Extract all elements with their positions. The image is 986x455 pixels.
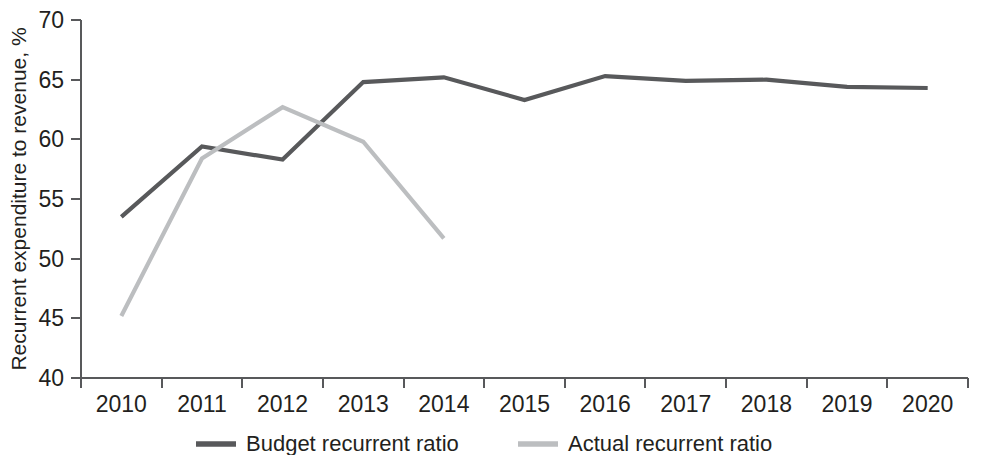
- x-tick-label-2018: 2018: [741, 391, 792, 417]
- series-group: [121, 76, 927, 316]
- x-tick-label-2014: 2014: [418, 391, 469, 417]
- legend-label-budget-recurrent-ratio: Budget recurrent ratio: [246, 431, 459, 455]
- y-tick-label-40: 40: [38, 365, 64, 391]
- x-tick-label-2012: 2012: [257, 391, 308, 417]
- x-tick-label-2011: 2011: [177, 391, 226, 417]
- x-tick-label-2013: 2013: [338, 391, 389, 417]
- y-tick-label-55: 55: [38, 186, 64, 212]
- x-tick-label-2019: 2019: [821, 391, 872, 417]
- chart-legend: Budget recurrent ratioActual recurrent r…: [196, 431, 772, 455]
- chart-container: Recurrent expenditure to revenue, % 4045…: [0, 0, 986, 455]
- x-tick-label-2017: 2017: [660, 391, 711, 417]
- y-axis-title: Recurrent expenditure to revenue, %: [7, 27, 30, 370]
- x-axis-ticks: [81, 378, 968, 388]
- x-tick-label-2010: 2010: [96, 391, 147, 417]
- y-tick-label-70: 70: [38, 7, 64, 33]
- x-tick-label-2020: 2020: [902, 391, 953, 417]
- series-line-budget-recurrent-ratio: [121, 76, 927, 217]
- x-tick-label-2016: 2016: [580, 391, 631, 417]
- x-tick-label-2015: 2015: [499, 391, 550, 417]
- y-tick-label-65: 65: [38, 67, 64, 93]
- y-axis-ticks: [71, 20, 81, 378]
- x-axis-tick-labels: 2010201120122013201420152016201720182019…: [96, 391, 954, 417]
- legend-item-budget-recurrent-ratio[interactable]: Budget recurrent ratio: [196, 431, 459, 455]
- y-tick-label-50: 50: [38, 246, 64, 272]
- series-line-actual-recurrent-ratio: [121, 107, 444, 316]
- y-tick-label-60: 60: [38, 126, 64, 152]
- legend-label-actual-recurrent-ratio: Actual recurrent ratio: [568, 431, 772, 455]
- legend-item-actual-recurrent-ratio[interactable]: Actual recurrent ratio: [518, 431, 772, 455]
- line-chart: Recurrent expenditure to revenue, % 4045…: [0, 0, 986, 455]
- y-axis-tick-labels: 40455055606570: [38, 7, 64, 391]
- y-tick-label-45: 45: [38, 305, 64, 331]
